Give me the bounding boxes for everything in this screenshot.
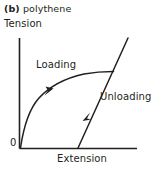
- y-axis-label: Tension: [4, 18, 42, 30]
- figure-caption-material: polythene: [23, 3, 71, 14]
- unloading-arrowhead-icon: [83, 113, 92, 122]
- unloading-curve-label: Unloading: [100, 91, 151, 103]
- figure-caption-label: (b): [4, 3, 20, 14]
- figure-caption: (b) polythene: [4, 3, 71, 14]
- polythene-hysteresis-figure: (b) polythene Tension 0 Extension Loadin…: [0, 0, 151, 172]
- loading-curve-label: Loading: [36, 59, 76, 71]
- x-axis-label: Extension: [57, 153, 107, 165]
- loading-curve: [21, 72, 114, 149]
- origin-label: 0: [10, 137, 16, 149]
